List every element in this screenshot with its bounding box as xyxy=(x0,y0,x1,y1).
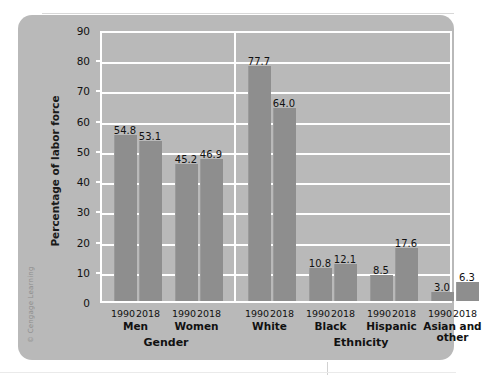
page-fold-tick xyxy=(327,362,328,375)
bar xyxy=(370,275,393,301)
bar-value-label: 3.0 xyxy=(434,282,450,293)
x-year-label: 1990 xyxy=(111,308,135,319)
bar-value-label: 6.3 xyxy=(459,272,475,283)
x-section-label: Ethnicity xyxy=(334,336,389,349)
top-cropped-caption-strip: · · · · · · xyxy=(42,0,454,14)
bar-value-label: 17.6 xyxy=(395,238,417,249)
x-year-label: 1990 xyxy=(428,308,452,319)
x-year-label: 1990 xyxy=(367,308,391,319)
bar-value-label: 12.1 xyxy=(334,254,356,265)
bar-value-label: 53.1 xyxy=(139,131,161,142)
y-tick-label: 80 xyxy=(56,55,90,67)
x-group-label: Women xyxy=(175,321,219,332)
x-year-label: 1990 xyxy=(245,308,269,319)
bar-value-label: 10.8 xyxy=(309,258,331,269)
bar-value-label: 77.7 xyxy=(248,56,270,67)
x-year-label: 2018 xyxy=(136,308,160,319)
y-tick-label: 90 xyxy=(56,25,90,37)
plot-wrapper: 0102030405060708090 54.853.145.246.977.7… xyxy=(56,16,454,360)
bar xyxy=(200,159,223,301)
y-tick-label: 50 xyxy=(56,146,90,158)
section-divider xyxy=(234,33,236,301)
bar-value-label: 8.5 xyxy=(373,265,389,276)
bar xyxy=(273,108,296,301)
bar xyxy=(456,282,479,301)
top-cropped-caption-text: · · · · · · xyxy=(48,0,79,2)
y-tick-label: 70 xyxy=(56,85,90,97)
x-year-label: 2018 xyxy=(197,308,221,319)
bar xyxy=(248,66,271,301)
x-year-label: 1990 xyxy=(172,308,196,319)
gridline xyxy=(102,92,450,94)
bar xyxy=(431,292,454,301)
x-year-label: 2018 xyxy=(270,308,294,319)
copyright-notice: © Cengage Learning xyxy=(27,263,35,343)
y-tick-label: 20 xyxy=(56,237,90,249)
x-year-label: 2018 xyxy=(392,308,416,319)
bar xyxy=(139,141,162,301)
y-tick-label: 10 xyxy=(56,267,90,279)
x-group-label: Men xyxy=(123,321,148,332)
bar-value-label: 54.8 xyxy=(114,125,136,136)
x-group-label: Hispanic xyxy=(366,321,417,332)
x-year-label: 2018 xyxy=(453,308,477,319)
chart-panel: © Cengage Learning Percentage of labor f… xyxy=(18,15,454,360)
x-year-label: 2018 xyxy=(331,308,355,319)
y-tick-label: 60 xyxy=(56,116,90,128)
bar-value-label: 64.0 xyxy=(273,98,295,109)
y-tick-label: 0 xyxy=(56,297,90,309)
bar xyxy=(395,248,418,301)
y-tick-label: 40 xyxy=(56,176,90,188)
bar xyxy=(175,164,198,301)
x-group-label: Asian andother xyxy=(423,321,481,343)
plot-area: 54.853.145.246.977.764.010.812.18.517.63… xyxy=(100,31,452,303)
bar xyxy=(309,268,332,301)
x-group-label: White xyxy=(252,321,287,332)
x-section-label: Gender xyxy=(143,336,188,349)
bar-value-label: 45.2 xyxy=(175,154,197,165)
x-group-label: Black xyxy=(315,321,347,332)
gridline xyxy=(102,62,450,64)
bar xyxy=(334,264,357,301)
bar-value-label: 46.9 xyxy=(200,149,222,160)
bar xyxy=(114,135,137,301)
page-bottom-rule xyxy=(0,372,456,373)
y-tick-label: 30 xyxy=(56,206,90,218)
x-year-label: 1990 xyxy=(306,308,330,319)
